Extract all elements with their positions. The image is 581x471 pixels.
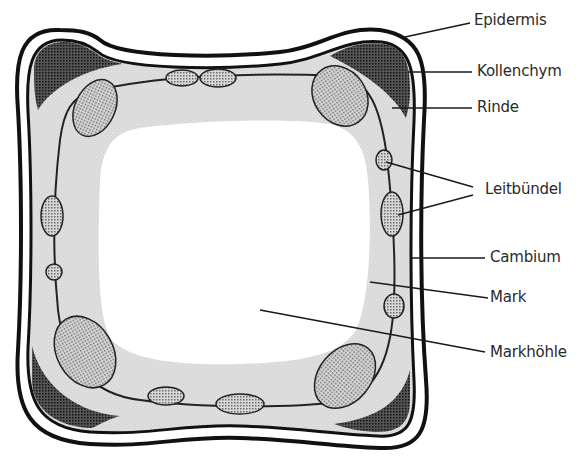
label-kollenchym: Kollenchym xyxy=(477,62,562,80)
markhoehle-cavity xyxy=(99,121,370,365)
label-leitbuendel: Leitbündel xyxy=(485,180,562,198)
label-cambium: Cambium xyxy=(490,248,561,266)
label-markhoehle: Markhöhle xyxy=(490,343,567,361)
label-mark: Mark xyxy=(490,288,526,306)
label-epidermis: Epidermis xyxy=(474,11,547,29)
label-rinde: Rinde xyxy=(477,98,519,116)
